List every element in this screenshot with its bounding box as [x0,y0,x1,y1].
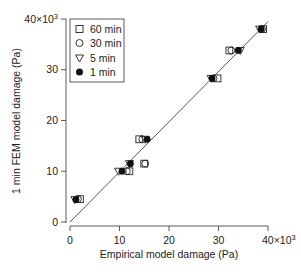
legend-label: 1 min [90,66,116,78]
x-axis-title: Empirical model damage (Pa) [100,248,238,260]
filled-circle-icon [76,69,83,76]
y-tick-label: 40×103 [24,12,58,25]
filled-circle-marker [144,136,151,143]
filled-circle-marker [235,47,242,54]
filled-circle-marker [119,168,126,175]
legend-label: 30 min [90,37,122,49]
y-tick-label: 0 [52,216,58,228]
x-tick-label: 20 [163,234,175,246]
x-tick-label: 30 [213,234,225,246]
open-circle-marker [228,47,235,54]
filled-circle-marker [127,160,134,167]
filled-circle-marker [258,26,265,33]
x-tick-label: 40×103 [262,233,296,246]
filled-circle-marker [209,75,216,82]
y-tick-label: 30 [46,63,58,75]
legend-label: 5 min [90,52,116,64]
axes: 010203040×103010203040×103 [24,12,295,247]
x-tick-label: 10 [114,234,126,246]
legend-label: 60 min [90,23,122,35]
scatter-chart: 010203040×103010203040×103 60 min 30 min… [0,0,301,277]
y-tick-label: 20 [46,114,58,126]
y-axis-title: 1 min FEM model damage (Pa) [10,48,22,194]
legend: 60 min 30 min 5 min 1 min [70,19,124,82]
y-tick-label: 10 [46,165,58,177]
filled-circle-marker [73,196,80,203]
x-tick-label: 0 [67,234,73,246]
